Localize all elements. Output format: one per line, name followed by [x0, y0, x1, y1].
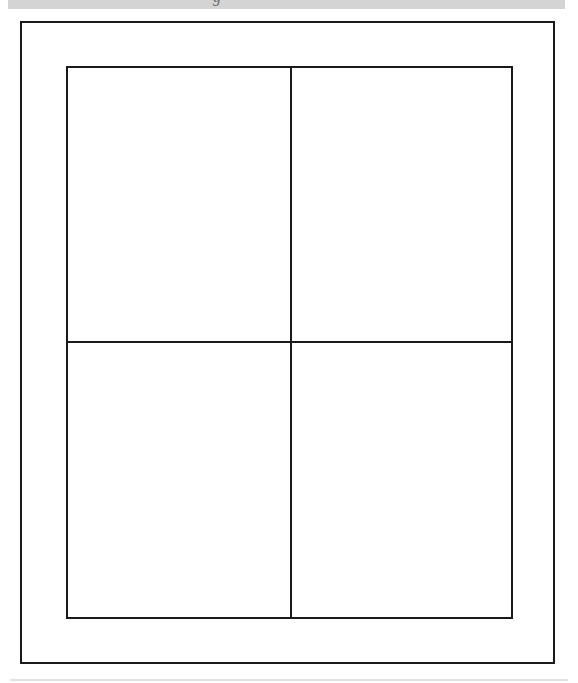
- panel-bottom-left: [68, 343, 292, 617]
- page-header-bar: g: [8, 0, 565, 9]
- panel-top-left: [68, 68, 292, 343]
- four-panel-grid: [66, 66, 513, 619]
- page-bottom-divider: [10, 679, 568, 681]
- panel-bottom-right: [292, 343, 511, 617]
- panel-top-right: [292, 68, 511, 343]
- header-text-cropped: g: [213, 0, 221, 6]
